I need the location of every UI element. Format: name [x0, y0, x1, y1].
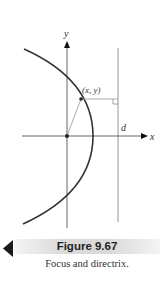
focus-point [65, 134, 69, 138]
parabola-diagram: y x d (x, y) [0, 0, 160, 235]
figure-title: Figure 9.67 [14, 239, 160, 254]
directrix-label: d [121, 122, 127, 133]
figure-caption: Focus and directrix. [14, 257, 160, 270]
triangle-left-icon[interactable] [1, 240, 13, 257]
point-label: (x, y) [82, 85, 100, 95]
curve-point [79, 97, 83, 101]
focus-distance-line [67, 99, 81, 136]
right-angle-marker [113, 99, 118, 104]
x-axis-label: x [149, 131, 155, 142]
parabola-curve [23, 49, 93, 224]
y-axis-label: y [63, 28, 69, 39]
x-axis-arrow-icon [141, 133, 148, 139]
caption-bar: Figure 9.67 [14, 239, 160, 254]
y-axis-arrow-icon [64, 41, 70, 48]
